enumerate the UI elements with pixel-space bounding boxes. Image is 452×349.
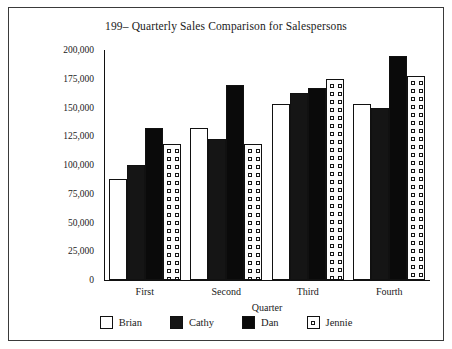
chart-title: 199– Quarterly Sales Comparison for Sale… — [0, 20, 452, 32]
legend-entry-jennie: Jennie — [307, 316, 353, 329]
bar-cathy-second — [208, 139, 226, 280]
legend-swatch-brian — [100, 316, 113, 329]
legend-label-jennie: Jennie — [326, 317, 353, 328]
y-axis-tick-label: 200,000 — [63, 45, 94, 55]
bar-cathy-fourth — [371, 108, 389, 281]
y-axis-tick-label: 75,000 — [68, 189, 94, 199]
chart-page: 199– Quarterly Sales Comparison for Sale… — [0, 0, 452, 349]
legend-swatch-cathy — [170, 316, 183, 329]
bar-dan-first — [145, 128, 163, 280]
plot-area: FirstSecondThirdFourth Quarter — [104, 50, 430, 281]
x-axis-line — [104, 280, 430, 281]
legend-swatch-dan — [242, 316, 255, 329]
bar-group — [190, 50, 262, 280]
x-axis-tick-label: Third — [297, 286, 319, 297]
legend-label-cathy: Cathy — [189, 317, 214, 328]
x-axis-tick-label: First — [136, 286, 154, 297]
legend-entry-dan: Dan — [242, 316, 279, 329]
x-axis-tick-label: Second — [212, 286, 241, 297]
bar-jennie-second — [244, 144, 262, 280]
bar-brian-first — [109, 179, 127, 280]
bar-brian-third — [272, 104, 290, 280]
legend-entry-brian: Brian — [100, 316, 142, 329]
bar-brian-second — [190, 128, 208, 280]
y-axis-line — [104, 50, 105, 281]
y-axis-tick-label: 125,000 — [63, 131, 94, 141]
bar-dan-third — [308, 88, 326, 280]
bar-dan-fourth — [389, 56, 407, 280]
bar-cathy-third — [290, 93, 308, 280]
x-axis-tick-label: Fourth — [376, 286, 403, 297]
bar-group — [272, 50, 344, 280]
bar-jennie-first — [163, 144, 181, 280]
bar-jennie-third — [326, 79, 344, 280]
y-axis-tick-label: 100,000 — [63, 160, 94, 170]
x-axis-title: Quarter — [104, 302, 430, 313]
chart-legend: BrianCathyDanJennie — [0, 316, 452, 329]
legend-swatch-jennie — [307, 316, 320, 329]
bar-jennie-fourth — [407, 76, 425, 280]
y-axis-tick-label: 50,000 — [68, 218, 94, 228]
legend-label-brian: Brian — [119, 317, 142, 328]
bar-group — [109, 50, 181, 280]
y-axis-tick-label: 150,000 — [63, 103, 94, 113]
bar-group — [353, 50, 425, 280]
bar-brian-fourth — [353, 104, 371, 280]
legend-entry-cathy: Cathy — [170, 316, 214, 329]
bar-dan-second — [226, 85, 244, 281]
legend-label-dan: Dan — [261, 317, 279, 328]
bar-cathy-first — [127, 165, 145, 280]
y-axis-tick-label: 25,000 — [68, 246, 94, 256]
y-axis-tick-label: 175,000 — [63, 74, 94, 84]
y-axis-tick-label: 0 — [89, 275, 94, 285]
y-axis-tick-labels: 025,00050,00075,000100,000125,000150,000… — [0, 50, 99, 281]
